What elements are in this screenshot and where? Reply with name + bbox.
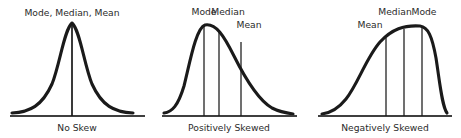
caption-no-skew: No Skew xyxy=(57,122,97,133)
panel-negatively-skewed: Mean Median Mode Negatively Skewed xyxy=(318,6,452,133)
label-mode-median-mean: Mode, Median, Mean xyxy=(24,7,119,18)
label-median-positive: Median xyxy=(211,6,245,17)
panel-positively-skewed: Mode Median Mean Positively Skewed xyxy=(162,6,297,133)
diagram-canvas: Mode, Median, Mean No Skew Mode Median M… xyxy=(0,0,461,138)
caption-positively-skewed: Positively Skewed xyxy=(188,122,270,133)
label-mean-positive: Mean xyxy=(236,19,261,30)
label-median-negative: Median xyxy=(378,6,412,17)
label-mean-negative: Mean xyxy=(357,19,382,30)
caption-negatively-skewed: Negatively Skewed xyxy=(341,122,429,133)
label-mode-negative: Mode xyxy=(411,6,436,17)
distribution-curve-negative-skew xyxy=(322,26,447,114)
skewness-diagram: Mode, Median, Mean No Skew Mode Median M… xyxy=(0,0,461,138)
distribution-curve-positive-skew xyxy=(164,25,293,114)
panel-no-skew: Mode, Median, Mean No Skew xyxy=(10,7,145,133)
